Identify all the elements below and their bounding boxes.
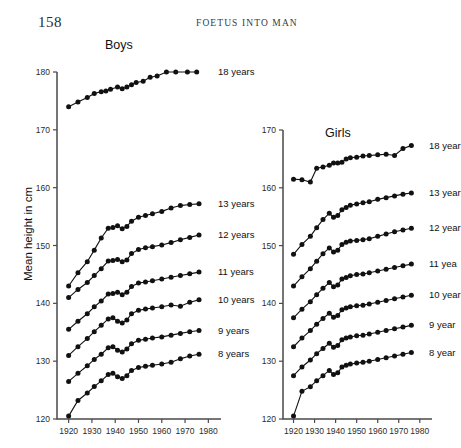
series-label-boys-a9: 9 years: [218, 325, 249, 336]
svg-text:1920: 1920: [284, 426, 303, 436]
svg-text:140: 140: [262, 298, 276, 308]
svg-text:1940: 1940: [326, 426, 345, 436]
series-label-girls-a10: 10 year: [429, 289, 461, 300]
svg-text:1950: 1950: [347, 426, 366, 436]
series-label-girls-a8: 8 year: [429, 347, 455, 358]
series-label-girls-a9: 9 year: [429, 319, 455, 330]
series-label-boys-a12: 12 years: [218, 229, 254, 240]
series-label-girls-a13: 13 year: [429, 187, 461, 198]
svg-text:170: 170: [262, 125, 276, 135]
svg-text:120: 120: [262, 414, 276, 424]
svg-text:1930: 1930: [305, 426, 324, 436]
svg-text:1980: 1980: [410, 426, 429, 436]
series-label-girls-a18: 18 year: [429, 140, 461, 151]
series-label-girls-a12: 12 year: [429, 222, 461, 233]
svg-text:130: 130: [262, 356, 276, 366]
series-label-boys-a8: 8 years: [218, 348, 249, 359]
series-label-girls-a11: 11 yea: [429, 258, 457, 269]
series-label-boys-a18: 18 years: [218, 66, 254, 77]
svg-text:1960: 1960: [368, 426, 387, 436]
series-label-boys-a11: 11 years: [218, 266, 254, 277]
svg-text:1970: 1970: [389, 426, 408, 436]
svg-text:150: 150: [262, 241, 276, 251]
svg-text:160: 160: [262, 183, 276, 193]
series-label-boys-a10: 10 years: [218, 294, 254, 305]
series-label-boys-a13: 13 years: [218, 198, 254, 209]
